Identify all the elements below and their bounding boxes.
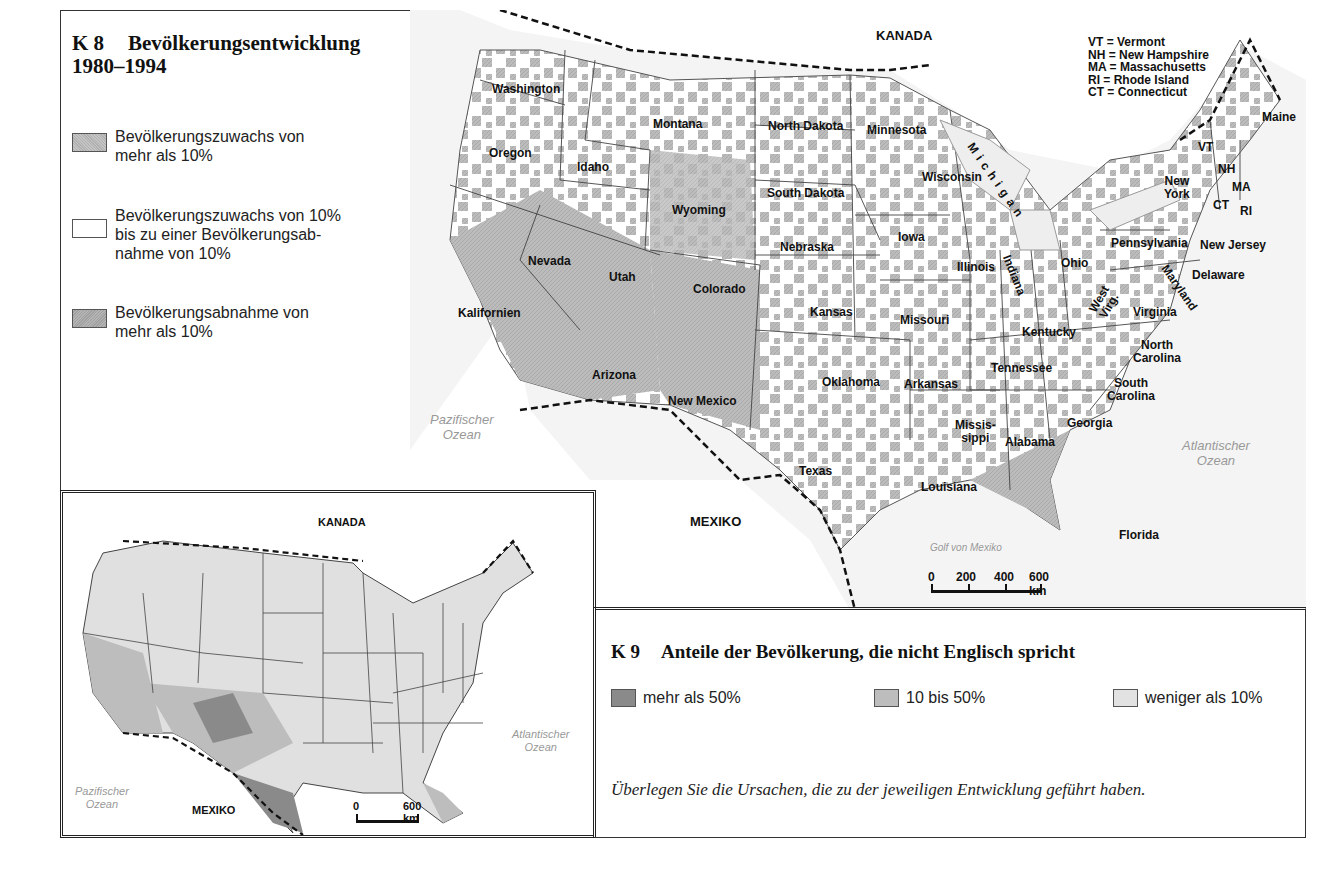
state-label: Kansas [810,305,853,319]
k8-label-gulf: Golf von Mexiko [930,540,1002,555]
state-label: NH [1218,162,1235,176]
k9-label-atlantic: AtlantischerOzean [512,728,569,754]
k8-legend-stable: Bevölkerungszuwachs von 10%bis zu einer … [72,206,341,263]
legend-swatch-stable [72,219,107,238]
k8-legend-growth: Bevölkerungszuwachs vonmehr als 10% [72,127,304,165]
legend-label: bis zu einer Bevölkerungsab- [115,226,321,243]
legend-label: mehr als 10% [115,323,213,340]
legend-swatch-low [1113,689,1138,707]
state-label: Georgia [1067,416,1112,430]
legend-swatch-high [611,689,636,707]
state-label: NewYork [1164,175,1190,201]
legend-swatch-decline [72,309,107,328]
state-label: New Mexico [668,394,737,408]
k9-number: K 9 [611,641,661,663]
state-label: Missouri [900,313,949,327]
state-label: Utah [609,270,636,284]
state-label: Arizona [592,368,636,382]
k8-legend-decline: Bevölkerungsabnahme vonmehr als 10% [72,303,309,341]
state-label: Wisconsin [922,170,982,184]
state-label: Louisiana [921,480,977,494]
usa-map-k9 [63,493,593,835]
state-label: Wyoming [672,203,726,217]
k8-label-atlantic: AtlantischerOzean [1182,438,1250,468]
state-label: Texas [799,464,832,478]
k9-label-pacific: PazifischerOzean [75,785,129,811]
state-label: Pennsylvania [1111,236,1188,250]
k9-map [63,493,593,835]
legend-label: Bevölkerungszuwachs von 10% [115,207,341,224]
legend-label: 10 bis 50% [906,689,985,707]
abbr-ma: MA = Massachusetts [1088,61,1209,74]
state-label: North Dakota [768,119,843,133]
state-label: MA [1232,180,1251,194]
state-label: Tennessee [991,361,1052,375]
state-label: Oregon [489,146,532,160]
legend-label: weniger als 10% [1145,689,1262,707]
legend-label: Bevölkerungsabnahme von [115,304,309,321]
state-label: Delaware [1192,268,1245,282]
k8-number: K 8 [72,32,128,55]
state-label: Washington [492,82,560,96]
state-label: Alabama [1005,435,1055,449]
k8-label-pacific: PazifischerOzean [430,412,494,442]
state-label: RI [1240,204,1252,218]
k8-title: K 8Bevölkerungsentwicklung 1980–1994 [72,32,360,78]
state-label: NorthCarolina [1133,339,1181,365]
state-abbreviation-legend: VT = Vermont NH = New Hampshire MA = Mas… [1088,36,1209,99]
state-label: Nevada [528,254,571,268]
k9-legend-high: mehr als 50% [611,689,741,707]
state-label: Florida [1119,528,1159,542]
state-label: South Dakota [767,186,844,200]
k9-label-kanada: KANADA [318,516,366,528]
state-label: Ohio [1061,256,1088,270]
state-label: Montana [653,117,702,131]
state-label: CT [1213,198,1229,212]
legend-swatch-growth [72,133,107,152]
state-label: SouthCarolina [1107,377,1155,403]
legend-swatch-medium [874,689,899,707]
study-question: Überlegen Sie die Ursachen, die zu der j… [611,780,1145,800]
state-label: Illinois [957,260,995,274]
abbr-ct: CT = Connecticut [1088,86,1209,99]
k9-title: K 9Anteile der Bevölkerung, die nicht En… [611,641,1075,663]
state-label: Kentucky [1022,325,1076,339]
legend-label: Bevölkerungszuwachs von [115,128,304,145]
state-label: Idaho [577,160,609,174]
k8-label-mexiko: MEXIKO [690,514,741,529]
k9-legend-medium: 10 bis 50% [874,689,985,707]
abbr-vt: VT = Vermont [1088,36,1209,49]
state-label: New Jersey [1200,238,1266,252]
state-label: Missis-sippi [955,419,996,445]
k8-label-kanada: KANADA [876,28,932,43]
k9-label-mexiko: MEXIKO [192,804,235,816]
legend-label: mehr als 10% [115,147,213,164]
state-label: Nebraska [780,240,834,254]
state-label: Kalifornien [458,306,521,320]
k8-period: 1980–1994 [72,54,167,78]
state-label: VT [1198,140,1213,154]
state-label: Oklahoma [822,375,880,389]
state-label: Arkansas [904,377,958,391]
k8-title-text: Bevölkerungsentwicklung [128,31,360,55]
state-label: Minnesota [867,123,926,137]
state-label: Colorado [693,282,746,296]
state-label: Virginia [1133,305,1177,319]
state-label: Iowa [898,230,925,244]
k9-legend-low: weniger als 10% [1113,689,1262,707]
k9-title-text: Anteile der Bevölkerung, die nicht Engli… [661,641,1075,662]
state-label: Maine [1262,110,1296,124]
legend-label: mehr als 50% [643,689,741,707]
legend-label: nahme von 10% [115,245,231,262]
